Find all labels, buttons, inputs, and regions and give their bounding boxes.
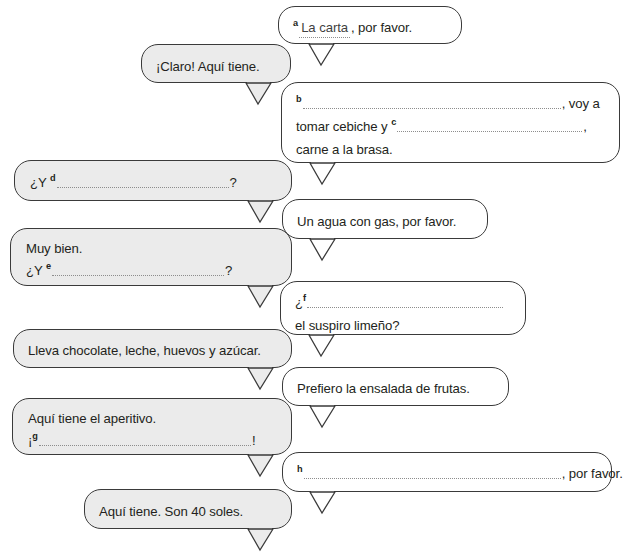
bubble-line: ¿Y d?	[30, 173, 276, 192]
bubble-line: Aquí tiene el aperitivo.	[28, 408, 276, 430]
bubble-line: carne a la brasa.	[296, 138, 605, 161]
bubble-claro[interactable]: ¡Claro! Aquí tiene.	[141, 44, 291, 83]
blank-letter-label: a	[293, 18, 298, 28]
bubble-content: Lleva chocolate, leche, huevos y azúcar.	[14, 330, 291, 367]
bubble-line: ¡g!	[28, 430, 276, 452]
bubble-agua[interactable]: Un agua con gas, por favor.	[282, 199, 488, 239]
speech-bubble-tail	[247, 200, 277, 224]
bubble-text-run: Aquí tiene el aperitivo.	[28, 411, 156, 426]
bubble-line: tomar cebiche y c,	[296, 115, 605, 138]
tail-seam-mask	[249, 453, 272, 455]
blank-letter-label: f	[303, 293, 306, 303]
tail-seam-mask	[249, 284, 272, 286]
bubble-text-run: !	[252, 433, 256, 448]
bubble-content: Aquí tiene el aperitivo.¡g!	[13, 399, 291, 454]
blank-letter-label: b	[296, 94, 302, 104]
answer-blank[interactable]	[303, 96, 561, 109]
bubble-text-run: , por favor.	[562, 466, 623, 481]
bubble-content: Prefiero la ensalada de frutas.	[283, 368, 508, 405]
bubble-line: Muy bien.	[26, 238, 276, 260]
bubble-content: h, por favor.	[283, 453, 611, 491]
bubble-text-run: el suspiro limeño?	[295, 318, 400, 333]
tail-seam-mask	[249, 366, 272, 368]
bubble-text-run: Un agua con gas, por favor.	[297, 214, 456, 229]
bubble-h[interactable]: h, por favor.	[282, 452, 612, 492]
bubble-a[interactable]: aLa carta, por favor.	[278, 6, 462, 44]
bubble-line: ¿Y e?	[26, 260, 276, 282]
bubble-line: ¿f	[295, 291, 511, 314]
bubble-content: Aquí tiene. Son 40 soles.	[85, 490, 291, 528]
bubble-text-run: ?	[230, 175, 237, 190]
bubble-f[interactable]: ¿fel suspiro limeño?	[280, 281, 526, 335]
bubble-content: ¿fel suspiro limeño?	[281, 282, 525, 334]
bubble-content: ¿Y d?	[15, 161, 291, 200]
answer-blank[interactable]	[304, 466, 561, 479]
answer-blank[interactable]	[52, 263, 224, 276]
speech-bubble-tail	[247, 454, 277, 478]
speech-bubble-tail	[309, 405, 339, 429]
tail-seam-mask	[310, 42, 333, 44]
speech-bubble-tail	[308, 43, 338, 67]
bubble-line: Aquí tiene. Son 40 soles.	[99, 502, 277, 521]
bubble-line: h, por favor.	[297, 464, 597, 483]
bubble-text-run: ¡Claro! Aquí tiene.	[156, 59, 260, 74]
blank-letter-label: c	[391, 117, 396, 127]
bubble-line: aLa carta, por favor.	[293, 18, 447, 37]
bubble-text-run: ?	[225, 263, 232, 278]
bubble-lleva[interactable]: Lleva chocolate, leche, huevos y azúcar.	[13, 329, 292, 368]
tail-seam-mask	[249, 199, 272, 201]
speech-bubble-tail	[309, 238, 339, 262]
speech-bubble-tail	[247, 528, 277, 552]
bubble-e[interactable]: Muy bien.¿Y e?	[10, 228, 292, 286]
bubble-content: Muy bien.¿Y e?	[11, 229, 291, 285]
bubble-text-run: ,	[583, 119, 587, 134]
tail-seam-mask	[311, 404, 334, 406]
speech-bubble-tail	[309, 491, 339, 515]
answer-blank[interactable]	[57, 175, 229, 188]
bubble-text-run: ¿	[295, 295, 303, 310]
bubble-line: Lleva chocolate, leche, huevos y azúcar.	[28, 341, 277, 360]
answer-blank[interactable]	[397, 119, 582, 132]
blank-letter-label: d	[50, 173, 56, 183]
tail-seam-mask	[311, 490, 334, 492]
bubble-text-run: tomar cebiche y	[296, 119, 391, 134]
answer-blank[interactable]	[39, 433, 251, 446]
speech-bubble-tail	[308, 334, 338, 358]
tail-seam-mask	[311, 161, 334, 163]
bubble-text-run: ¿Y	[26, 263, 46, 278]
bubble-line: Prefiero la ensalada de frutas.	[297, 379, 494, 398]
blank-letter-label: e	[46, 261, 51, 271]
bubble-text-run: , voy a	[562, 96, 600, 111]
bubble-content: b, voy atomar cebiche y c,carne a la bra…	[282, 83, 619, 162]
bubble-text-run: Aquí tiene. Son 40 soles.	[99, 504, 243, 519]
bubble-g[interactable]: Aquí tiene el aperitivo.¡g!	[12, 398, 292, 455]
bubble-b[interactable]: b, voy atomar cebiche y c,carne a la bra…	[281, 82, 620, 163]
answer-blank[interactable]	[307, 295, 503, 308]
speech-bubble-tail	[245, 82, 275, 106]
bubble-d[interactable]: ¿Y d?	[14, 160, 292, 201]
tail-seam-mask	[310, 333, 333, 335]
bubble-content: aLa carta, por favor.	[279, 7, 461, 43]
bubble-soles[interactable]: Aquí tiene. Son 40 soles.	[84, 489, 292, 529]
bubble-text-run: Lleva chocolate, leche, huevos y azúcar.	[28, 343, 261, 358]
bubble-text-run: carne a la brasa.	[296, 142, 393, 157]
bubble-content: ¡Claro! Aquí tiene.	[142, 45, 290, 82]
answer-blank-filled[interactable]: La carta	[299, 18, 350, 38]
bubble-prefiero[interactable]: Prefiero la ensalada de frutas.	[282, 367, 509, 406]
tail-seam-mask	[247, 81, 270, 83]
bubble-line: b, voy a	[296, 92, 605, 115]
tail-seam-mask	[249, 527, 272, 529]
blank-letter-label: h	[297, 464, 303, 474]
speech-bubble-tail	[247, 285, 277, 309]
bubble-text-run: , por favor.	[351, 20, 412, 35]
bubble-text-run: Prefiero la ensalada de frutas.	[297, 381, 470, 396]
bubble-text-run: ¿Y	[30, 175, 50, 190]
speech-bubble-tail	[309, 162, 339, 186]
blank-letter-label: g	[32, 431, 38, 441]
bubble-text-run: Muy bien.	[26, 241, 82, 256]
bubble-content: Un agua con gas, por favor.	[283, 200, 487, 238]
bubble-line: ¡Claro! Aquí tiene.	[156, 57, 276, 76]
speech-bubble-tail	[247, 367, 277, 391]
tail-seam-mask	[311, 237, 334, 239]
